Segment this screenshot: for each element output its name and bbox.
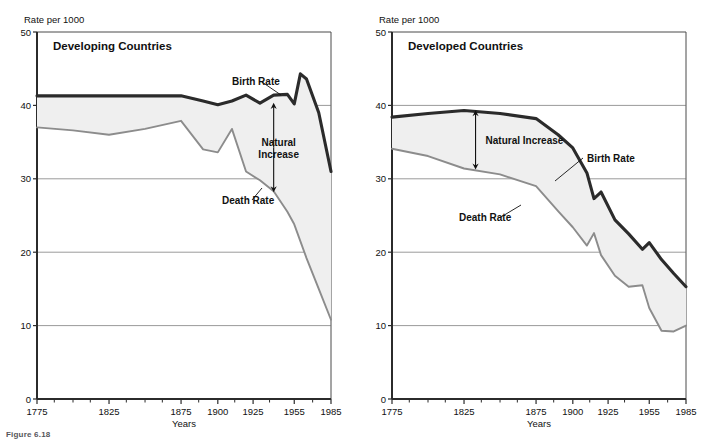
y-axis-label: Rate per 1000 xyxy=(379,14,439,25)
x-tick-label: 1985 xyxy=(675,406,696,417)
y-tick-label: 40 xyxy=(20,100,31,111)
x-tick-label: 1775 xyxy=(381,406,402,417)
x-tick-label: 1955 xyxy=(284,406,305,417)
x-tick-label: 1875 xyxy=(170,406,191,417)
y-tick-label: 40 xyxy=(375,100,386,111)
x-tick-label: 1825 xyxy=(98,406,119,417)
figure-caption: Figure 6.18 xyxy=(6,430,50,439)
x-tick-label: 1825 xyxy=(453,406,474,417)
natural-increase-label: Natural Increase xyxy=(486,135,564,146)
chart-panel-developed: Rate per 1000010203040501775182518751900… xyxy=(355,0,705,442)
y-tick-label: 20 xyxy=(375,247,386,258)
x-tick-label: 1955 xyxy=(639,406,660,417)
plot-frame xyxy=(392,32,686,399)
death-rate-label: Death Rate xyxy=(459,212,512,223)
y-tick-label: 30 xyxy=(375,173,386,184)
x-axis-label: Years xyxy=(527,418,551,429)
x-tick-label: 1900 xyxy=(562,406,583,417)
y-tick-label: 50 xyxy=(375,27,386,38)
y-tick-label: 30 xyxy=(20,173,31,184)
y-tick-label: 0 xyxy=(26,394,31,405)
y-tick-label: 50 xyxy=(20,27,31,38)
chart-svg: Rate per 1000010203040501775182518751900… xyxy=(355,0,705,442)
x-tick-label: 1900 xyxy=(207,406,228,417)
birth-rate-label: Birth Rate xyxy=(232,76,280,87)
y-tick-label: 10 xyxy=(375,320,386,331)
figure-root: Rate per 1000010203040501775182518751900… xyxy=(0,0,705,442)
panel-title: Developed Countries xyxy=(408,40,523,52)
natural-increase-band xyxy=(37,74,331,320)
plot-frame xyxy=(37,32,331,399)
panel-title: Developing Countries xyxy=(53,40,172,52)
chart-panel-developing: Rate per 1000010203040501775182518751900… xyxy=(0,0,352,442)
y-axis-label: Rate per 1000 xyxy=(24,14,84,25)
x-tick-label: 1985 xyxy=(320,406,341,417)
x-axis-label: Years xyxy=(172,418,196,429)
x-tick-label: 1775 xyxy=(26,406,47,417)
y-tick-label: 20 xyxy=(20,247,31,258)
chart-svg: Rate per 1000010203040501775182518751900… xyxy=(0,0,352,442)
y-tick-label: 10 xyxy=(20,320,31,331)
x-tick-label: 1875 xyxy=(525,406,546,417)
y-tick-label: 0 xyxy=(381,394,386,405)
birth-rate-label: Birth Rate xyxy=(587,153,635,164)
natural-increase-label: NaturalIncrease xyxy=(258,137,299,160)
x-tick-label: 1925 xyxy=(243,406,264,417)
x-tick-label: 1925 xyxy=(598,406,619,417)
death-rate-label: Death Rate xyxy=(222,195,275,206)
